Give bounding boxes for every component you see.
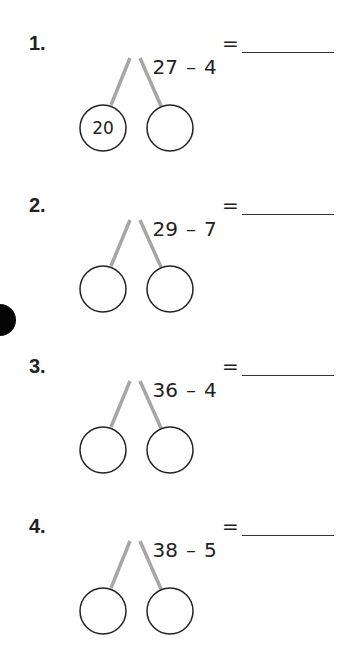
bond-line-right: [140, 541, 161, 589]
left-part-value: [80, 427, 126, 473]
bond-line-left: [111, 541, 130, 588]
bond-line-right: [140, 381, 161, 428]
bond-line-left: [111, 58, 130, 105]
problem-3: 3. 36–4 =: [0, 354, 357, 514]
bond-line-left: [111, 381, 130, 427]
left-part-value: [80, 266, 126, 312]
bond-line-right: [140, 58, 161, 106]
right-part-value: [147, 105, 193, 151]
right-part-value: [147, 427, 193, 473]
problem-4: 4. 38–5 =: [0, 514, 357, 666]
problem-1: 1. 27–4 = 20: [0, 31, 357, 191]
bond-line-left: [111, 220, 130, 266]
left-part-value: 20: [80, 105, 126, 151]
right-part-value: [147, 266, 193, 312]
right-part-value: [147, 588, 193, 634]
left-part-value: [80, 588, 126, 634]
problem-2: 2. 29–7 =: [0, 193, 357, 353]
bond-line-right: [140, 220, 161, 267]
